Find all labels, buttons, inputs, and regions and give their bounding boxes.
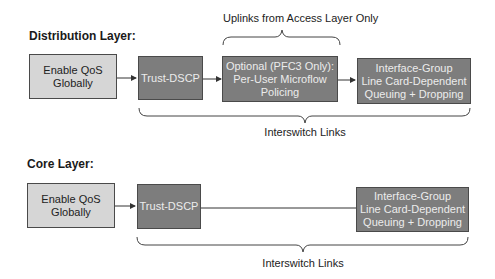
box-line: Optional (PFC3 Only):: [226, 60, 334, 73]
queuing-dropping-box: Interface-Group Line Card-Dependent Queu…: [357, 58, 471, 104]
distribution-layer-heading: Distribution Layer:: [29, 29, 136, 43]
box-line: Enable QoS: [41, 193, 100, 206]
box-line: Enable QoS: [43, 64, 102, 77]
box-line: Policing: [226, 86, 334, 99]
uplinks-label: Uplinks from Access Layer Only: [223, 12, 343, 24]
core-trust-dscp-box: Trust-DSCP: [137, 184, 201, 229]
box-line: Interface-Group: [361, 62, 466, 75]
core-interswitch-label: Interswitch Links: [243, 257, 363, 269]
core-queuing-dropping-box: Interface-Group Line Card-Dependent Queu…: [356, 187, 469, 232]
core-layer-heading: Core Layer:: [27, 157, 94, 171]
box-line: Globally: [41, 206, 100, 219]
box-line: Per-User Microflow: [226, 73, 334, 86]
box-line: Line Card-Dependent: [360, 203, 465, 216]
box-line: Line Card-Dependent: [361, 75, 466, 88]
trust-dscp-box: Trust-DSCP: [138, 56, 203, 100]
uplinks-brace: [223, 30, 340, 45]
distribution-interswitch-brace: [139, 108, 470, 123]
enable-qos-box: Enable QoS Globally: [29, 54, 117, 99]
box-line: Queuing + Dropping: [360, 216, 465, 229]
core-interswitch-brace: [137, 237, 468, 252]
microflow-policing-box: Optional (PFC3 Only): Per-User Microflow…: [222, 56, 338, 102]
box-line: Globally: [43, 77, 102, 90]
core-enable-qos-box: Enable QoS Globally: [27, 183, 115, 228]
box-line: Queuing + Dropping: [361, 88, 466, 101]
distribution-interswitch-label: Interswitch Links: [245, 126, 365, 138]
box-line: Trust-DSCP: [141, 72, 200, 85]
box-line: Trust-DSCP: [140, 200, 199, 213]
box-line: Interface-Group: [360, 190, 465, 203]
